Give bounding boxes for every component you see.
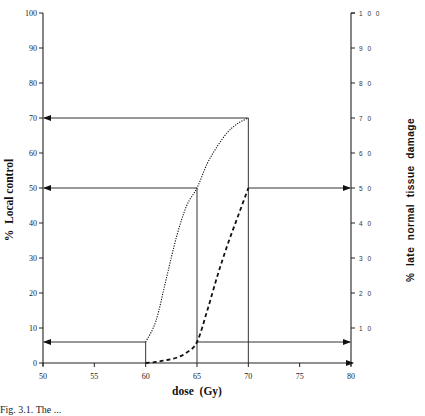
x-tick-label: 70 bbox=[244, 372, 252, 381]
y-tick-label-left: 0 bbox=[33, 359, 37, 368]
guide-lines bbox=[44, 118, 350, 363]
x-axis-label: dose (Gy) bbox=[172, 385, 222, 398]
y-tick-label-right: 6 0 bbox=[359, 150, 373, 157]
x-tick-label: 65 bbox=[193, 372, 201, 381]
y-tick-label-right: 8 0 bbox=[359, 80, 373, 87]
y-tick-label-right: 4 0 bbox=[359, 220, 373, 227]
x-tick-label: 75 bbox=[296, 372, 304, 381]
y-axis-label-right: % late normal tissue damage bbox=[405, 118, 416, 282]
y-tick-label-right: 9 0 bbox=[359, 45, 373, 52]
y-tick-label-right: 5 0 bbox=[359, 185, 373, 192]
y-tick-label-left: 70 bbox=[29, 114, 37, 123]
y-tick-label-right: 2 0 bbox=[359, 290, 373, 297]
y-tick-label-left: 10 bbox=[29, 324, 37, 333]
ticks: 01020304050607080901001 02 03 04 05 06 0… bbox=[25, 9, 381, 381]
y-tick-label-right: 1 0 0 bbox=[359, 10, 381, 17]
y-tick-label-left: 60 bbox=[29, 149, 37, 158]
y-tick-label-left: 80 bbox=[29, 79, 37, 88]
x-tick-label: 60 bbox=[142, 372, 150, 381]
y-tick-label-left: 100 bbox=[25, 9, 37, 18]
y-tick-label-left: 50 bbox=[29, 184, 37, 193]
y-tick-label-left: 90 bbox=[29, 44, 37, 53]
x-tick-label: 55 bbox=[90, 372, 98, 381]
y-tick-label-left: 30 bbox=[29, 254, 37, 263]
x-tick-label: 50 bbox=[39, 372, 47, 381]
y-tick-label-left: 40 bbox=[29, 219, 37, 228]
axes bbox=[43, 13, 353, 366]
figure-caption: Fig. 3.1. The ... bbox=[0, 404, 61, 415]
y-tick-label-right: 1 0 bbox=[359, 325, 373, 332]
x-tick-label: 80 bbox=[347, 372, 355, 381]
y-tick-label-right: 3 0 bbox=[359, 255, 373, 262]
dose-response-chart: 01020304050607080901001 02 03 04 05 06 0… bbox=[0, 0, 425, 416]
y-axis-label-left: % Local control bbox=[3, 159, 15, 242]
y-tick-label-right: 7 0 bbox=[359, 115, 373, 122]
y-tick-label-left: 20 bbox=[29, 289, 37, 298]
